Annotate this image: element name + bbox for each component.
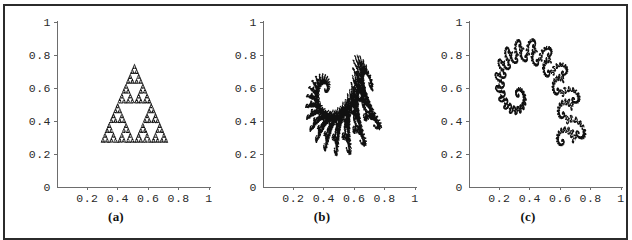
x-tick-label: 0.2 bbox=[282, 192, 304, 205]
y-tick-label: 0.2 bbox=[441, 148, 463, 161]
y-tick-label: 0.6 bbox=[441, 82, 463, 95]
panel-b: 0.20.40.60.810.20.40.60.810 (b) bbox=[219, 6, 425, 227]
panel-c: 0.20.40.60.810.20.40.60.810 (c) bbox=[425, 6, 631, 227]
figure-frame: 0.20.40.60.810.20.40.60.810 (a) 0.20.40.… bbox=[3, 4, 628, 227]
y-tick-label: 0.2 bbox=[235, 148, 257, 161]
y-tick-label: 0.2 bbox=[29, 148, 51, 161]
y-tick-label: 0.8 bbox=[29, 49, 51, 62]
x-tick-label: 0.4 bbox=[313, 192, 335, 205]
x-tick-label: 0.2 bbox=[76, 192, 98, 205]
y-tick-label: 0.8 bbox=[441, 49, 463, 62]
origin-label: 0 bbox=[456, 181, 463, 194]
x-tick-label: 0.4 bbox=[107, 192, 129, 205]
y-tick-label: 0.4 bbox=[441, 115, 463, 128]
attractor-points bbox=[494, 38, 586, 146]
plot-b: 0.20.40.60.810.20.40.60.810 bbox=[219, 6, 425, 206]
plot-c: 0.20.40.60.810.20.40.60.810 bbox=[425, 6, 631, 206]
y-tick-label: 0.8 bbox=[235, 49, 257, 62]
origin-label: 0 bbox=[44, 181, 51, 194]
panel-a: 0.20.40.60.810.20.40.60.810 (a) bbox=[13, 6, 219, 227]
y-tick-label: 0.4 bbox=[235, 115, 257, 128]
x-tick-label: 0.8 bbox=[373, 192, 395, 205]
attractor-points bbox=[101, 64, 169, 143]
x-tick-label: 1 bbox=[205, 192, 212, 205]
y-tick-label: 1 bbox=[456, 16, 463, 29]
y-tick-label: 1 bbox=[250, 16, 257, 29]
x-tick-label: 0.2 bbox=[488, 192, 510, 205]
panel-a-caption: (a) bbox=[13, 209, 219, 225]
x-tick-label: 0.6 bbox=[343, 192, 365, 205]
plot-a: 0.20.40.60.810.20.40.60.810 bbox=[13, 6, 219, 206]
x-tick-label: 1 bbox=[411, 192, 418, 205]
x-tick-label: 1 bbox=[617, 192, 624, 205]
attractor-b bbox=[305, 54, 382, 156]
panel-c-caption: (c) bbox=[425, 209, 631, 225]
x-tick-label: 0.6 bbox=[549, 192, 571, 205]
y-tick-label: 1 bbox=[44, 16, 51, 29]
y-tick-label: 0.4 bbox=[29, 115, 51, 128]
attractor-a bbox=[101, 64, 169, 143]
x-tick-label: 0.4 bbox=[519, 192, 541, 205]
x-tick-label: 0.6 bbox=[137, 192, 159, 205]
y-tick-label: 0.6 bbox=[235, 82, 257, 95]
x-tick-label: 0.8 bbox=[167, 192, 189, 205]
y-tick-label: 0.6 bbox=[29, 82, 51, 95]
attractor-c bbox=[494, 38, 586, 146]
panel-b-caption: (b) bbox=[219, 209, 425, 225]
x-tick-label: 0.8 bbox=[579, 192, 601, 205]
attractor-points bbox=[305, 54, 382, 156]
origin-label: 0 bbox=[250, 181, 257, 194]
